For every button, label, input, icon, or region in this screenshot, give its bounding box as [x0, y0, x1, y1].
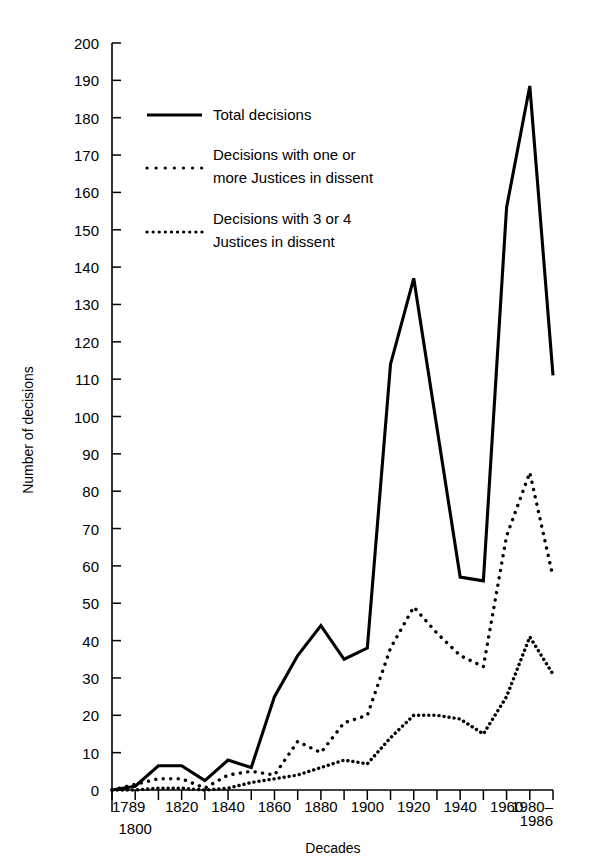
- y-tick-label-40: 40: [82, 633, 99, 650]
- legend-label-three-or-four-dissent-line2: Justices in dissent: [213, 233, 336, 250]
- y-tick-label-50: 50: [82, 595, 99, 612]
- x-tick-label-1940: 1940: [443, 798, 476, 815]
- y-tick-label-160: 160: [74, 184, 99, 201]
- x-tick-label-1800: 1800: [119, 820, 152, 837]
- x-tick-label-1820: 1820: [165, 798, 198, 815]
- x-tick-label-1789: 1789: [112, 798, 145, 815]
- y-tick-label-150: 150: [74, 222, 99, 239]
- data-series-layer: [112, 86, 553, 790]
- y-tick-label-180: 180: [74, 110, 99, 127]
- series-line-0: [112, 86, 553, 790]
- line-chart: 0102030405060708090100110120130140150160…: [0, 0, 592, 866]
- y-axis-ticks: [112, 43, 121, 790]
- y-tick-label-30: 30: [82, 670, 99, 687]
- legend-label-total-decisions: Total decisions: [213, 106, 311, 123]
- y-tick-label-80: 80: [82, 483, 99, 500]
- y-tick-label-200: 200: [74, 35, 99, 52]
- y-tick-label-20: 20: [82, 707, 99, 724]
- y-tick-label-130: 130: [74, 296, 99, 313]
- y-tick-label-10: 10: [82, 745, 99, 762]
- x-tick-label-1860: 1860: [258, 798, 291, 815]
- x-tick-label-1840: 1840: [211, 798, 244, 815]
- x-tick-label-1920: 1920: [397, 798, 430, 815]
- chart-container: 0102030405060708090100110120130140150160…: [0, 0, 592, 866]
- x-tick-label-1880: 1880: [304, 798, 337, 815]
- legend-label-one-or-more-dissent-line1: Decisions with one or: [213, 146, 356, 163]
- y-axis-title: Number of decisions: [20, 366, 36, 494]
- y-tick-label-120: 120: [74, 334, 99, 351]
- x-tick-label-1900: 1900: [351, 798, 384, 815]
- y-tick-label-0: 0: [91, 782, 99, 799]
- y-tick-label-190: 190: [74, 72, 99, 89]
- y-tick-label-170: 170: [74, 147, 99, 164]
- y-tick-label-70: 70: [82, 521, 99, 538]
- x-axis-end-year-label: 1986: [520, 812, 553, 829]
- legend-label-three-or-four-dissent-line1: Decisions with 3 or 4: [213, 210, 351, 227]
- chart-legend: Total decisions Decisions with one or mo…: [147, 106, 374, 250]
- y-tick-label-100: 100: [74, 409, 99, 426]
- y-axis-tick-labels: 0102030405060708090100110120130140150160…: [74, 35, 99, 799]
- y-tick-label-60: 60: [82, 558, 99, 575]
- y-tick-label-90: 90: [82, 446, 99, 463]
- x-axis-title: Decades: [305, 840, 360, 856]
- legend-label-one-or-more-dissent-line2: more Justices in dissent: [213, 169, 374, 186]
- x-axis-tick-labels: 1789180018201840186018801900192019401960…: [112, 798, 554, 837]
- y-tick-label-140: 140: [74, 259, 99, 276]
- y-tick-label-110: 110: [75, 371, 99, 388]
